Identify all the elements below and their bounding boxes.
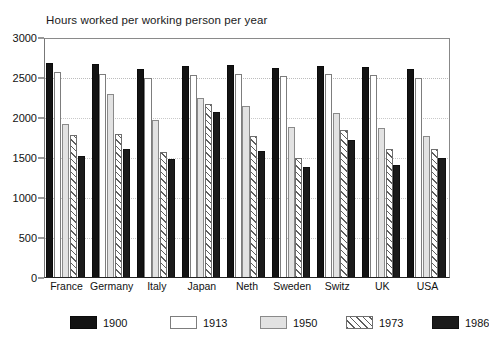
x-tick-label: Switz [325, 280, 350, 292]
y-tick-label: 1000 [13, 192, 37, 204]
x-tick-label: USA [417, 280, 439, 292]
y-axis: 050010001500200025003000 [0, 38, 44, 278]
legend-swatch-icon [70, 316, 97, 329]
plot-area [44, 38, 450, 278]
x-tick-label: Sweden [273, 280, 311, 292]
legend-label: 1900 [103, 317, 127, 329]
legend-item[interactable]: 1973 [346, 316, 403, 329]
legend-label: 1913 [203, 317, 227, 329]
legend-label: 1973 [379, 317, 403, 329]
y-tick-label: 0 [31, 272, 37, 284]
y-tick-label: 1500 [13, 152, 37, 164]
legend-swatch-icon [346, 316, 373, 329]
x-tick-label: Germany [90, 280, 133, 292]
legend-item[interactable]: 1950 [260, 316, 317, 329]
chart-title: Hours worked per working person per year [46, 14, 267, 26]
legend-label: 1950 [293, 317, 317, 329]
legend-swatch-icon [260, 316, 287, 329]
y-tick-label: 2500 [13, 72, 37, 84]
x-tick-label: Neth [236, 280, 258, 292]
legend-item[interactable]: 1913 [170, 316, 227, 329]
legend-swatch-icon [432, 316, 459, 329]
y-tick-label: 500 [19, 232, 37, 244]
legend-swatch-icon [170, 316, 197, 329]
x-tick-label: UK [375, 280, 390, 292]
x-tick-label: Japan [188, 280, 217, 292]
y-tick-label: 3000 [13, 32, 37, 44]
chart-legend: 19001913195019731986 [44, 316, 450, 342]
x-axis: FranceGermanyItalyJapanNethSwedenSwitzUK… [44, 280, 450, 300]
y-tick-label: 2000 [13, 112, 37, 124]
x-tick-label: France [50, 280, 83, 292]
plot-frame [44, 38, 450, 278]
legend-item[interactable]: 1986 [432, 316, 489, 329]
x-tick-label: Italy [147, 280, 166, 292]
legend-label: 1986 [465, 317, 489, 329]
legend-item[interactable]: 1900 [70, 316, 127, 329]
